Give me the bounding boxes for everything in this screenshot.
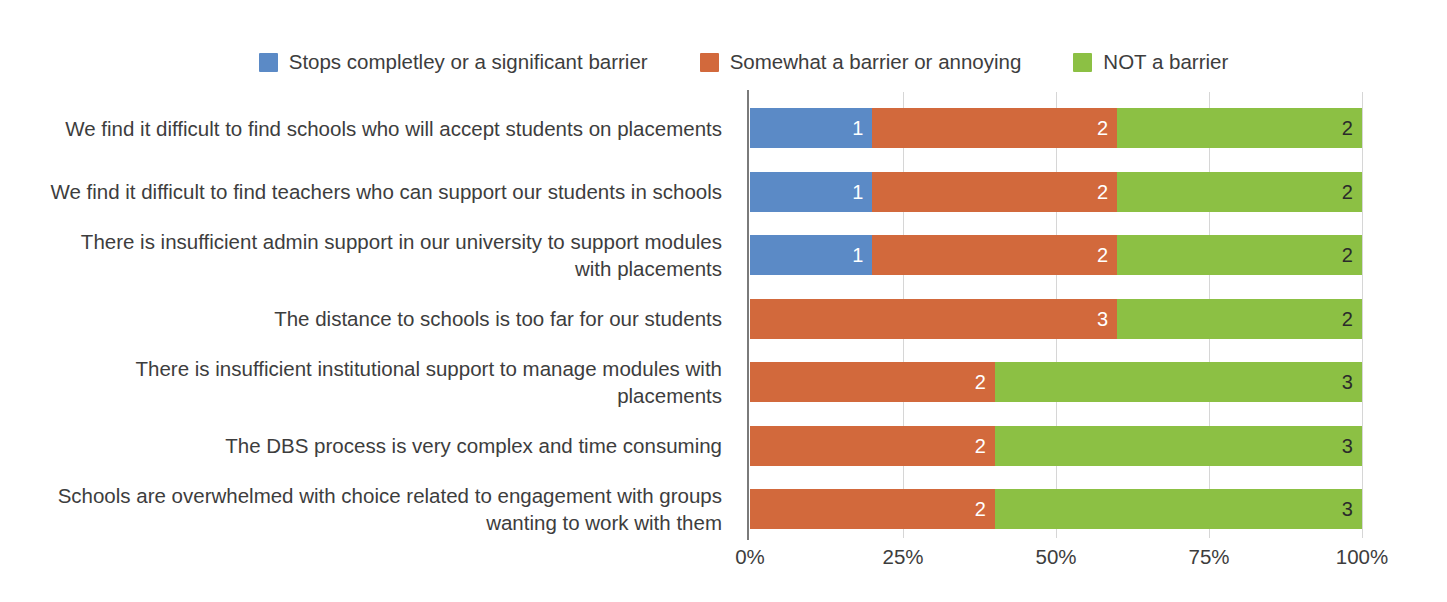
category-label-line: wanting to work with them	[486, 509, 722, 536]
bar-value-label: 3	[1097, 309, 1117, 329]
bar-segment[interactable]: 1	[750, 108, 872, 148]
bar-segment[interactable]: 2	[1117, 108, 1362, 148]
bar-value-label: 3	[1342, 499, 1362, 519]
value-axis-tick-0pct: 0%	[735, 545, 765, 569]
bar-value-label: 2	[1342, 118, 1362, 138]
value-axis-tick-75pct: 75%	[1188, 545, 1229, 569]
bar-segment[interactable]: 2	[872, 172, 1117, 212]
value-axis-tick-25pct: 25%	[882, 545, 923, 569]
bar-value-label: 3	[1342, 436, 1362, 456]
category-label-line: There is insufficient institutional supp…	[35, 355, 722, 409]
chart-legend: Stops completley or a significant barrie…	[0, 44, 1447, 80]
bar-value-label: 2	[1097, 245, 1117, 265]
legend-item-stops-completely[interactable]: Stops completley or a significant barrie…	[259, 52, 648, 73]
bar-segment[interactable]: 2	[1117, 235, 1362, 275]
bar-segment[interactable]: 3	[995, 426, 1362, 466]
category-label-line: with placements	[575, 255, 722, 282]
category-label: We find it difficult to find schools who…	[35, 108, 735, 148]
category-label-line: Schools are overwhelmed with choice rela…	[58, 482, 722, 509]
gridline-100pct	[1362, 92, 1363, 538]
legend-label-somewhat-barrier: Somewhat a barrier or annoying	[730, 52, 1022, 73]
bar-row[interactable]: 023	[750, 426, 1362, 466]
category-label-line: We find it difficult to find teachers wh…	[50, 178, 722, 205]
legend-swatch-icon-green	[1073, 53, 1092, 72]
category-label: We find it difficult to find teachers wh…	[35, 172, 735, 212]
value-axis-tick-labels: 0%25%50%75%100%	[750, 545, 1362, 575]
bar-value-label: 3	[1342, 372, 1362, 392]
bar-value-label: 1	[852, 118, 872, 138]
bar-segment[interactable]: 1	[750, 235, 872, 275]
plot-area: 122122122032023023023	[750, 92, 1362, 538]
legend-swatch-icon-blue	[259, 53, 278, 72]
bar-segment[interactable]: 1	[750, 172, 872, 212]
bar-value-label: 2	[975, 436, 995, 456]
bar-row[interactable]: 032	[750, 299, 1362, 339]
bar-rows: 122122122032023023023	[750, 92, 1362, 538]
bar-value-label: 1	[852, 182, 872, 202]
bar-segment[interactable]: 3	[750, 299, 1117, 339]
bar-segment[interactable]: 3	[995, 362, 1362, 402]
category-label: There is insufficient institutional supp…	[35, 362, 735, 402]
bar-segment[interactable]: 2	[1117, 299, 1362, 339]
category-label-line: The DBS process is very complex and time…	[225, 432, 722, 459]
value-axis-line	[747, 90, 749, 540]
bar-segment[interactable]: 2	[1117, 172, 1362, 212]
bar-row[interactable]: 023	[750, 362, 1362, 402]
legend-swatch-icon-orange	[700, 53, 719, 72]
bar-segment[interactable]: 2	[750, 489, 995, 529]
bar-value-label: 2	[1097, 182, 1117, 202]
value-axis-tick-100pct: 100%	[1336, 545, 1388, 569]
bar-row[interactable]: 122	[750, 172, 1362, 212]
bar-segment[interactable]: 2	[872, 235, 1117, 275]
category-label-line: There is insufficient admin support in o…	[81, 228, 722, 255]
bar-segment[interactable]: 2	[872, 108, 1117, 148]
legend-item-not-a-barrier[interactable]: NOT a barrier	[1073, 52, 1228, 73]
category-label-line: We find it difficult to find schools who…	[65, 115, 722, 142]
bar-row[interactable]: 122	[750, 235, 1362, 275]
bar-value-label: 2	[1342, 309, 1362, 329]
category-label-line: The distance to schools is too far for o…	[274, 305, 722, 332]
bar-segment[interactable]: 2	[750, 362, 995, 402]
category-label: The DBS process is very complex and time…	[35, 426, 735, 466]
stacked-bar-chart: Stops completley or a significant barrie…	[0, 0, 1447, 602]
legend-item-somewhat-barrier[interactable]: Somewhat a barrier or annoying	[700, 52, 1022, 73]
bar-value-label: 2	[1342, 182, 1362, 202]
category-label: There is insufficient admin support in o…	[35, 235, 735, 275]
bar-value-label: 1	[852, 245, 872, 265]
category-label: The distance to schools is too far for o…	[35, 299, 735, 339]
bar-segment[interactable]: 3	[995, 489, 1362, 529]
value-axis-tick-50pct: 50%	[1035, 545, 1076, 569]
legend-label-not-a-barrier: NOT a barrier	[1103, 52, 1228, 73]
bar-value-label: 2	[975, 499, 995, 519]
bar-segment[interactable]: 2	[750, 426, 995, 466]
bar-value-label: 2	[1342, 245, 1362, 265]
bar-value-label: 2	[975, 372, 995, 392]
category-label: Schools are overwhelmed with choice rela…	[35, 489, 735, 529]
bar-row[interactable]: 122	[750, 108, 1362, 148]
bar-value-label: 2	[1097, 118, 1117, 138]
category-axis-labels: We find it difficult to find schools who…	[0, 92, 735, 538]
legend-label-stops-completely: Stops completley or a significant barrie…	[289, 52, 648, 73]
bar-row[interactable]: 023	[750, 489, 1362, 529]
